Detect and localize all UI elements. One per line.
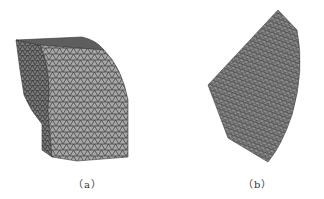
mesh-panel-a [16, 37, 128, 161]
mesh-figure-svg [0, 0, 324, 199]
mesh-a-front-face [40, 45, 128, 161]
mesh-b-surface [208, 10, 300, 162]
figure: （a） （b） [0, 0, 324, 199]
caption-b: （b） [243, 176, 272, 191]
caption-a: （a） [73, 176, 102, 191]
mesh-panel-b [208, 10, 300, 162]
